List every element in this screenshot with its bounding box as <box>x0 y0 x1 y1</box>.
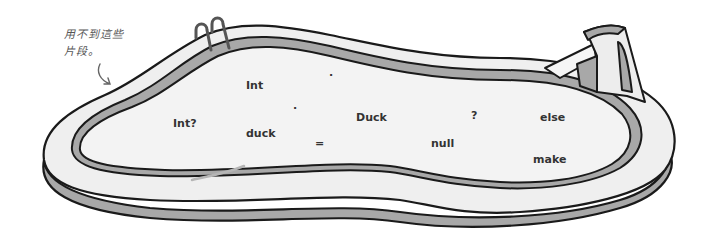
snippet-equals[interactable]: = <box>315 137 324 150</box>
snippet-dot[interactable]: . <box>293 99 297 112</box>
pool-puzzle: 用不到這些 片段。 Int . . Int? duck = Duck ? els… <box>0 0 701 235</box>
snippet-int[interactable]: Int <box>246 79 263 92</box>
note-line-1: 用不到這些 <box>64 26 124 43</box>
snippet-duck-variable[interactable]: duck <box>246 127 276 140</box>
annotation-arrow-icon <box>98 64 110 84</box>
snippet-null[interactable]: null <box>431 137 454 150</box>
snippet-make[interactable]: make <box>533 153 566 166</box>
snippet-else[interactable]: else <box>540 111 565 124</box>
unused-snippets-note: 用不到這些 片段。 <box>64 26 124 60</box>
snippet-duck-class[interactable]: Duck <box>356 111 387 124</box>
snippet-question-mark[interactable]: ? <box>471 109 477 122</box>
snippet-dot[interactable]: . <box>329 66 333 79</box>
note-line-2: 片段。 <box>64 43 124 60</box>
snippet-int-nullable[interactable]: Int? <box>173 117 197 130</box>
